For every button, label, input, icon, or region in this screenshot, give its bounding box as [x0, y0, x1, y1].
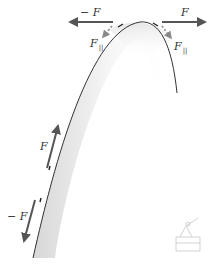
label-side-down-force: − F [7, 210, 28, 223]
label-top-right-force: F [180, 6, 189, 19]
force-arrow-side-up [47, 126, 58, 168]
parallel-arrow-left [103, 26, 112, 37]
label-right-parallel: F|| [173, 40, 187, 55]
force-diagram: − F F F|| F|| F − F [0, 0, 216, 264]
label-side-up-force: F [39, 140, 48, 153]
box-pencil-icon [176, 218, 200, 251]
label-top-left-force: − F [80, 6, 101, 19]
label-left-parallel: F|| [89, 37, 103, 52]
